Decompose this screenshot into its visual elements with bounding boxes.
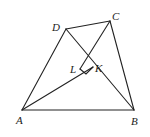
diagram-canvas: D C L K A B <box>0 0 150 137</box>
segment-cb <box>110 21 134 110</box>
segment-ak <box>22 67 93 110</box>
label-l: L <box>69 63 76 75</box>
label-k: K <box>94 62 103 74</box>
geometry-diagram: D C L K A B <box>0 0 150 137</box>
label-c: C <box>112 10 120 22</box>
segment-ad <box>22 29 66 110</box>
label-b: B <box>131 115 138 127</box>
label-d: D <box>51 21 60 33</box>
segment-dc <box>66 21 110 29</box>
label-a: A <box>15 114 23 126</box>
